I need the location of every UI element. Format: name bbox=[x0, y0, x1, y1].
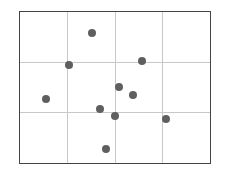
data-point bbox=[115, 83, 123, 91]
data-point bbox=[129, 91, 137, 99]
scatter-plot-area bbox=[19, 11, 211, 164]
data-point bbox=[88, 29, 96, 37]
data-point bbox=[42, 95, 50, 103]
data-point bbox=[162, 115, 170, 123]
data-point bbox=[65, 61, 73, 69]
data-point bbox=[96, 105, 104, 113]
vertical-gridline bbox=[67, 12, 68, 163]
data-point bbox=[111, 112, 119, 120]
horizontal-gridline bbox=[20, 62, 210, 63]
vertical-gridline bbox=[162, 12, 163, 163]
data-point bbox=[102, 145, 110, 153]
data-point bbox=[138, 57, 146, 65]
